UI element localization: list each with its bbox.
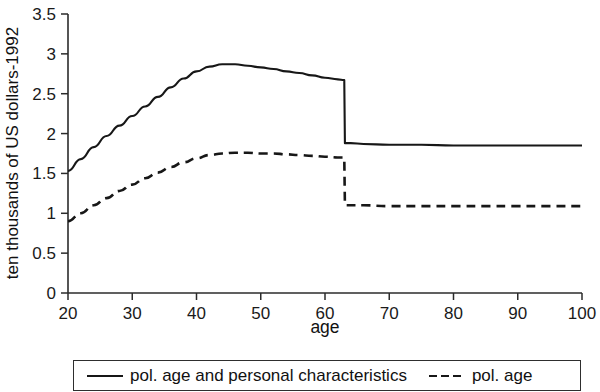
x-tick-label: 100: [568, 304, 596, 323]
series-line-dashed: [68, 153, 582, 222]
legend-solid-line-icon: [87, 370, 123, 382]
y-tick-label: 1.5: [32, 164, 56, 183]
y-tick-label: 0.5: [32, 244, 56, 263]
y-axis-ticks: 00.511.522.533.5: [32, 5, 68, 303]
y-tick-label: 2: [47, 125, 56, 144]
x-tick-label: 30: [123, 304, 142, 323]
x-tick-label: 20: [59, 304, 78, 323]
x-tick-label: 90: [508, 304, 527, 323]
y-tick-label: 2.5: [32, 85, 56, 104]
legend-entry-solid: pol. age and personal characteristics: [87, 367, 407, 384]
chart-series-group: [68, 64, 582, 221]
x-axis-title: age: [310, 317, 339, 337]
x-tick-label: 50: [251, 304, 270, 323]
legend-label-dashed: pol. age: [472, 367, 533, 384]
chart-figure: 00.511.522.533.5 2030405060708090100 age…: [0, 0, 600, 392]
chart-legend: pol. age and personal characteristics po…: [73, 360, 581, 391]
line-chart-plot: 00.511.522.533.5 2030405060708090100 age…: [0, 0, 600, 392]
y-tick-label: 0: [47, 284, 56, 303]
y-tick-label: 3: [47, 45, 56, 64]
x-tick-label: 40: [187, 304, 206, 323]
legend-dashed-line-icon: [429, 370, 465, 382]
y-axis-title: ten thousands of US dollars-1992: [3, 27, 22, 279]
x-tick-label: 80: [444, 304, 463, 323]
y-tick-label: 1: [47, 204, 56, 223]
y-tick-label: 3.5: [32, 5, 56, 24]
series-line-solid: [68, 64, 582, 171]
chart-axes: [68, 14, 582, 293]
legend-entry-dashed: pol. age: [429, 367, 533, 384]
legend-label-solid: pol. age and personal characteristics: [130, 367, 407, 384]
x-tick-label: 70: [380, 304, 399, 323]
